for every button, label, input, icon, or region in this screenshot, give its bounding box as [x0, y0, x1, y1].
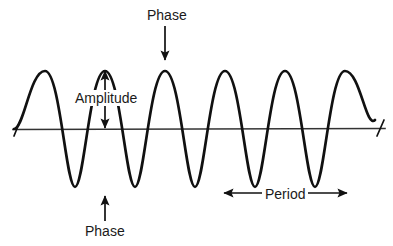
amplitude-label: Amplitude — [73, 90, 139, 106]
period-label: Period — [262, 186, 308, 202]
baseline-axis — [13, 129, 385, 130]
phase-top-label: Phase — [147, 8, 187, 22]
wave-diagram-graphic — [0, 0, 393, 246]
wave-diagram-canvas: Phase Phase Amplitude Period — [0, 0, 393, 246]
phase-bottom-label: Phase — [85, 224, 125, 238]
